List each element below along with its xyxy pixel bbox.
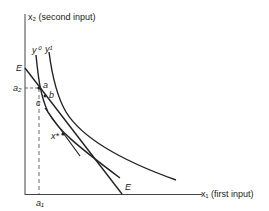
x-axis-label: x₁ (first input) bbox=[201, 190, 254, 199]
isocost-label-bottom: E bbox=[125, 183, 131, 192]
point-b-label: b bbox=[49, 91, 54, 100]
tick-a1-label: a₁ bbox=[36, 199, 44, 208]
point-b-marker bbox=[44, 95, 47, 98]
point-a-label: a bbox=[43, 81, 48, 90]
point-a-marker bbox=[37, 86, 40, 89]
point-xstar-label: x* bbox=[51, 132, 59, 141]
isoquant-y0 bbox=[36, 55, 120, 178]
tick-a2-label: a₂ bbox=[13, 84, 21, 93]
point-xstar-marker bbox=[61, 132, 64, 135]
y-axis-label: x₂ (second input) bbox=[28, 13, 96, 22]
isocost-label-top: E bbox=[16, 64, 22, 73]
isoquant-y0-label: y⁰ bbox=[32, 46, 41, 55]
isoquant-y1 bbox=[49, 52, 176, 180]
isoquant-y1-label: y¹ bbox=[45, 45, 53, 54]
point-c-label: c bbox=[36, 99, 41, 108]
